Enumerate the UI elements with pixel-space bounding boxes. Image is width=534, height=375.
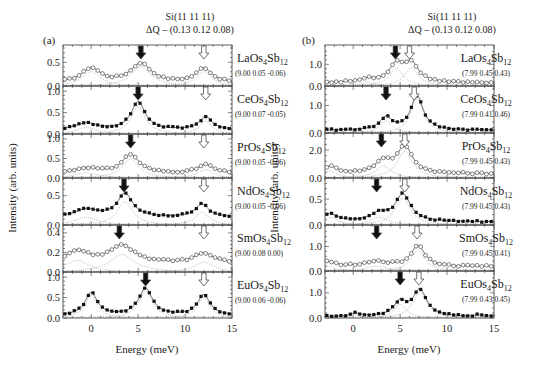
filled-arrow-icon [376,134,386,147]
header-line2-a: ΔQ – (0.13 0.12 0.08) [146,24,234,36]
subplot-CeOs4Sb12: 0.01.0CeOs4Sb12(7.99 0.41 0.46) [309,86,512,139]
x-tick-label: 0 [351,323,356,334]
subplot-SmOs4Sb12: 0.01.0SmOs4Sb12(7.99 0.45 0.41) [309,225,513,277]
q-vector-label: (7.99 0.45 0.41) [462,249,511,258]
y-tick-label: 0.5 [47,190,60,201]
y-tick-label: 0.5 [47,292,60,303]
filled-arrow-icon [390,46,400,59]
y-tick-label: 0.5 [47,57,60,68]
header-line1-b: Si(11 11 11) [428,11,477,23]
y-tick-label: 0.5 [47,107,60,118]
subplot-frame [63,134,232,178]
q-vector-label: (7.99 0.45 0.43) [462,157,511,166]
q-vector-label: (7.99 0.45 0.43) [462,202,511,211]
subplot-EuOs4Sb12: 0.00.51.0EuOs4Sb12(9.00 0.06 -0.06) [47,272,288,324]
panel-a: (a) Si(11 11 11) ΔQ – (0.13 0.12 0.08) I… [6,11,291,356]
compound-label: NdOs4Sb12 [237,184,290,200]
filled-arrow-icon [114,226,124,239]
open-arrow-icon [409,87,419,100]
q-vector-label: (9.00 0.08 0.00) [235,249,284,258]
subplot-PrOs4Sb12: 0.02.0PrOs4Sb12(7.99 0.45 0.43) [309,133,511,184]
subplot-CeOs4Sb12: 0.00.51.0CeOs4Sb12(9.00 0.07 -0.05) [47,86,288,140]
panel-b: (b) Si(11 11 11) ΔQ – (0.13 0.12 0.08) I… [268,11,513,356]
y-tick-label: 1.0 [47,272,60,283]
filled-arrow-icon [381,87,391,100]
y-tick-label: 0.0 [47,173,60,184]
subplot-PrOs4Sb12: 0.00.51.0PrOs4Sb12(9.00 0.05 -0.06) [47,133,286,183]
fit-curve [63,288,232,314]
y-tick-label: 0.4 [47,227,61,238]
q-vector-label: (9.00 0.06 -0.06) [235,296,286,305]
y-tick-label: 0.5 [309,194,322,205]
filled-arrow-icon [136,46,146,59]
open-arrow-icon [199,46,209,59]
header-line1-a: Si(11 11 11) [166,11,215,23]
y-tick-label: 1.0 [309,59,322,70]
filled-arrow-icon [372,226,382,239]
subplot-NdOs4Sb12: 0.00.5NdOs4Sb12(7.99 0.45 0.43) [309,178,512,231]
compound-label: SmOs4Sb12 [459,231,513,247]
open-arrow-icon [412,226,422,239]
y-tick-label: 0.0 [309,313,322,324]
subplot-LaOs4Sb12: 0.00.5LaOs4Sb12(9.00 0.05 -0.06) [47,45,288,92]
compound-label: CeOs4Sb12 [460,92,511,108]
y-axis-label-a: Intensity (arb. units) [6,143,19,233]
subplot-NdOs4Sb12: 0.00.5NdOs4Sb12(9.00 0.05 -0.06) [47,178,290,231]
y-tick-label: 0.2 [47,247,60,258]
x-axis-label-a: Energy (meV) [115,343,178,356]
compound-label: NdOs4Sb12 [460,184,513,200]
data-points [63,243,231,264]
open-arrow-icon [405,46,415,59]
x-tick-label: 0 [89,323,94,334]
y-tick-label: 0.0 [47,313,60,324]
y-tick-label: 1.0 [47,86,60,97]
filled-arrow-icon [133,87,143,100]
compound-label: PrOs4Sb12 [462,139,511,155]
subplot-SmOs4Sb12: 0.00.20.4SmOs4Sb12(9.00 0.08 0.00) [47,225,291,278]
y-tick-label: 0.0 [309,128,322,139]
q-vector-label: (7.99 0.43 0.45) [462,295,511,304]
x-tick-label: 15 [227,323,238,334]
open-arrow-icon [199,273,209,286]
subplot-frame [63,45,232,86]
compound-label: CeOs4Sb12 [237,92,288,108]
data-points [63,61,231,82]
y-tick-label: 0.0 [309,220,322,231]
figure-canvas: (a) Si(11 11 11) ΔQ – (0.13 0.12 0.08) I… [0,0,534,375]
filled-arrow-icon [372,179,382,192]
compound-label: SmOs4Sb12 [237,231,291,247]
y-tick-label: 1.0 [309,241,322,252]
open-arrow-icon [199,135,209,148]
subplots-b: 0510150.01.0LaOs4Sb12(7.99 0.45 0.43)0.0… [309,45,513,334]
y-tick-label: 2.0 [309,145,322,156]
filled-arrow-icon [126,135,136,148]
y-tick-label: 1.0 [309,100,322,111]
y-tick-label: 1.0 [47,133,60,144]
open-arrow-icon [400,179,410,192]
subplot-LaOs4Sb12: 0.01.0LaOs4Sb12(7.99 0.45 0.43) [309,45,511,92]
y-tick-label: 0.0 [309,81,322,92]
filled-arrow-icon [119,179,129,192]
open-arrow-icon [199,226,209,239]
x-tick-label: 5 [397,323,402,334]
compound-label: LaOs4Sb12 [461,51,512,67]
filled-arrow-icon [395,272,405,285]
x-axis-label-b: Energy (meV) [377,343,440,356]
q-vector-label: (7.99 0.41 0.46) [462,110,511,119]
open-arrow-icon [414,272,424,285]
x-tick-label: 10 [442,323,453,334]
y-tick-label: 0.0 [309,266,322,277]
header-line2-b: ΔQ – (0.13 0.12 0.08) [408,24,496,36]
compound-label: EuOs4Sb12 [460,277,511,293]
subplot-frame [63,178,232,225]
x-tick-label: 5 [135,323,140,334]
x-tick-label: 15 [489,323,500,334]
filled-arrow-icon [141,273,151,286]
x-tick-label: 10 [180,323,191,334]
data-points [63,287,231,316]
panel-label-a: (a) [43,34,56,47]
q-vector-label: (9.00 0.07 -0.05) [235,110,286,119]
subplot-frame [63,225,232,272]
compound-label: LaOs4Sb12 [237,51,288,67]
open-arrow-icon [199,179,209,192]
